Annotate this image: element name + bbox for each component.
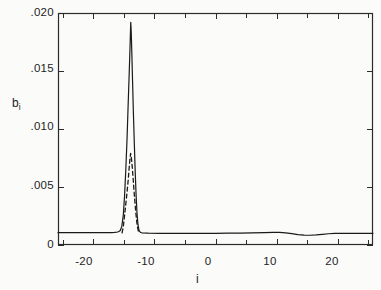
y-axis-title: bi [12, 96, 21, 112]
x-tick-label-0: 0 [192, 255, 224, 267]
x-tick-label-20: 20 [316, 255, 348, 267]
chart-plot-area [0, 0, 381, 290]
y-tick-label-015: .015 [6, 62, 54, 74]
x-tick-label-minus10: -10 [130, 255, 162, 267]
data-curve-solid [58, 22, 373, 235]
y-tick-label-020: .020 [6, 6, 54, 18]
y-tick-label-010: .010 [6, 120, 54, 132]
axes-frame [59, 14, 373, 245]
y-tick-label-0: 0 [6, 238, 54, 250]
y-tick-label-005: .005 [6, 179, 54, 191]
plot-frame [59, 14, 373, 245]
axis-ticks [58, 13, 373, 246]
x-axis-title: i [196, 272, 199, 286]
x-axis-title-text: i [196, 272, 199, 286]
data-series-group [58, 22, 373, 235]
figure-container: .020 .015 .010 .005 0 -20 -10 0 10 20 i … [0, 0, 381, 290]
x-tick-label-10: 10 [254, 255, 286, 267]
y-axis-title-subscript: i [19, 102, 21, 112]
y-axis-title-base: b [12, 96, 19, 110]
x-tick-label-minus20: -20 [68, 255, 100, 267]
